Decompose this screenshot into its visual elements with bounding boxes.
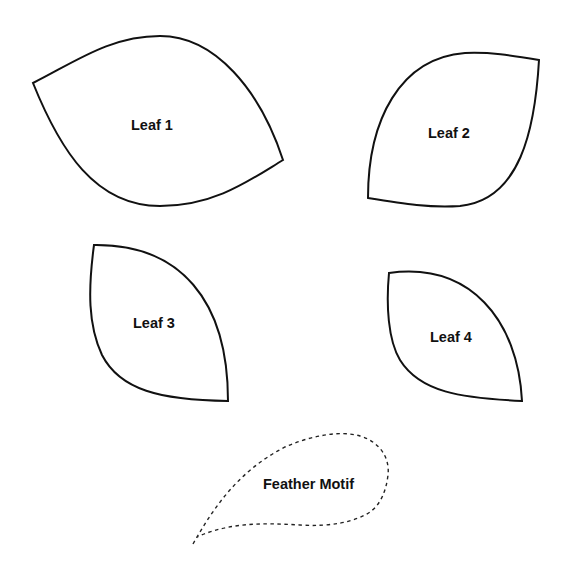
feather-motif-shape: Feather Motif: [193, 434, 388, 544]
leaf-2-label: Leaf 2: [428, 125, 470, 141]
leaf-4-label: Leaf 4: [430, 329, 472, 345]
leaf-1-label: Leaf 1: [131, 117, 173, 133]
leaf-2-shape: Leaf 2: [368, 53, 539, 207]
leaf-1-shape: Leaf 1: [33, 36, 283, 206]
pattern-sheet: Leaf 1 Leaf 2 Leaf 3 Leaf 4 Feather Moti…: [0, 0, 563, 576]
feather-motif-label: Feather Motif: [263, 476, 354, 492]
leaf-3-label: Leaf 3: [133, 315, 175, 331]
leaf-4-shape: Leaf 4: [388, 272, 522, 401]
leaf-3-shape: Leaf 3: [90, 245, 228, 401]
